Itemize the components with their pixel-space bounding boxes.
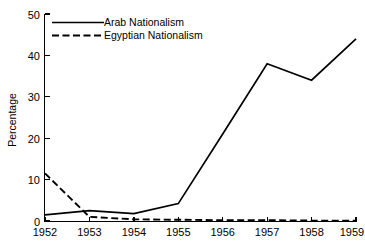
x-tick-label-1955: 1955 (166, 226, 190, 238)
x-tick-label-1958: 1958 (299, 226, 323, 238)
y-tick-label-40: 40 (28, 50, 40, 62)
x-tick-label-1952: 1952 (33, 226, 57, 238)
legend-label-arab-nationalism: Arab Nationalism (104, 16, 184, 28)
y-axis-label: Percentage (6, 93, 18, 147)
y-tick-label-10: 10 (28, 174, 40, 186)
y-tick-label-20: 20 (28, 133, 40, 145)
x-tick-label-1959: 1959 (340, 226, 364, 238)
chart-figure: Percentage 50 40 30 20 10 0 1952 1953 19… (0, 0, 365, 250)
x-tick-label-1953: 1953 (77, 226, 101, 238)
x-tick-label-1957: 1957 (255, 226, 279, 238)
x-tick-label-1956: 1956 (210, 226, 234, 238)
x-tick-label-1954: 1954 (122, 226, 146, 238)
y-tick-label-50: 50 (28, 9, 40, 21)
legend-label-egyptian-nationalism: Egyptian Nationalism (104, 29, 203, 41)
y-tick-label-30: 30 (28, 91, 40, 103)
line-chart: Percentage 50 40 30 20 10 0 1952 1953 19… (0, 0, 365, 250)
